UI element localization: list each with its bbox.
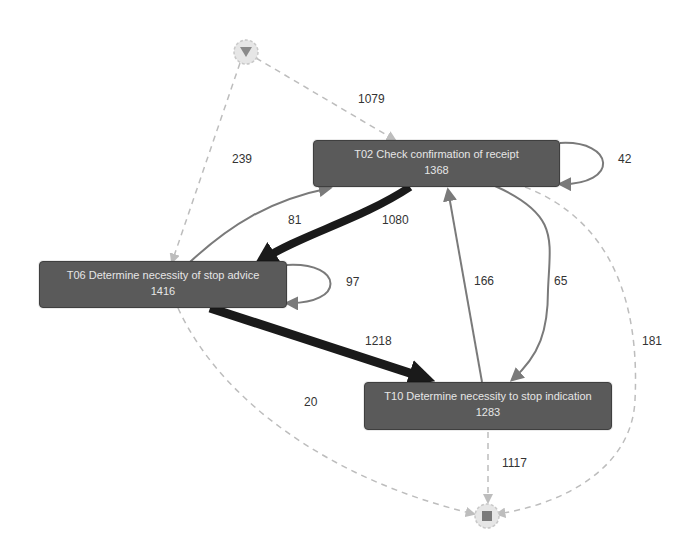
edge-label-t06-t02: 81 bbox=[288, 213, 301, 227]
start-node[interactable] bbox=[234, 40, 258, 64]
activity-label: T06 Determine necessity of stop advice bbox=[67, 269, 260, 281]
edge-t02-to-t10[interactable] bbox=[495, 186, 550, 380]
activity-count: 1416 bbox=[40, 283, 286, 299]
activity-label: T02 Check confirmation of receipt bbox=[354, 148, 518, 160]
activity-count: 1283 bbox=[365, 404, 611, 420]
activity-count: 1368 bbox=[314, 162, 559, 178]
edge-label-t02-self: 42 bbox=[618, 152, 631, 166]
edge-label-start-t02: 1079 bbox=[358, 92, 385, 106]
activity-node-t06[interactable]: T06 Determine necessity of stop advice 1… bbox=[39, 261, 287, 308]
edge-start-to-t06[interactable] bbox=[172, 63, 240, 262]
activity-node-t10[interactable]: T10 Determine necessity to stop indicati… bbox=[364, 382, 612, 430]
edge-t02-self-loop[interactable] bbox=[560, 143, 603, 184]
edge-label-t02-t06: 1080 bbox=[382, 213, 409, 227]
edge-t06-to-t02[interactable] bbox=[190, 188, 330, 262]
edge-label-t10-end: 1117 bbox=[502, 456, 527, 470]
edge-label-t06-t10: 1218 bbox=[365, 334, 392, 348]
edge-t06-self-loop[interactable] bbox=[287, 265, 331, 303]
activity-node-t02[interactable]: T02 Check confirmation of receipt 1368 bbox=[313, 140, 560, 187]
end-node[interactable] bbox=[475, 504, 499, 528]
edge-label-t02-end: 181 bbox=[642, 334, 662, 348]
end-square-icon bbox=[482, 511, 492, 521]
edge-label-t06-self: 97 bbox=[346, 275, 359, 289]
edge-label-t02-t10: 65 bbox=[554, 274, 567, 288]
edge-label-start-t06: 239 bbox=[232, 152, 252, 166]
edge-label-t10-t02: 166 bbox=[474, 274, 494, 288]
edge-label-t06-end: 20 bbox=[304, 395, 317, 409]
activity-label: T10 Determine necessity to stop indicati… bbox=[384, 390, 591, 402]
edge-t06-to-t10[interactable] bbox=[210, 308, 425, 378]
